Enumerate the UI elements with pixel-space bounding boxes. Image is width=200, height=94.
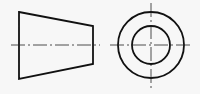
drawing-canvas (0, 0, 200, 94)
frustum-outline (19, 12, 93, 79)
side-view (110, 3, 191, 88)
front-view (11, 12, 100, 79)
